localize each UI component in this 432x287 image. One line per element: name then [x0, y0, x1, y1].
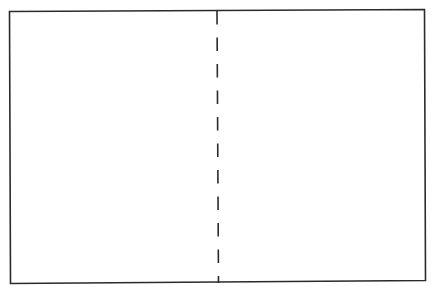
fold-diagram	[0, 0, 432, 287]
left-panel	[10, 11, 217, 282]
right-panel	[217, 11, 425, 282]
